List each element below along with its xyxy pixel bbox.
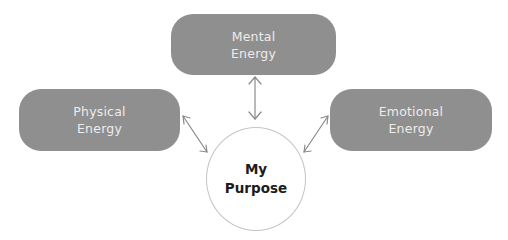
double-arrow-icon-physical-purpose [183, 116, 207, 152]
physical-energy-label-line1: Physical [73, 103, 125, 120]
physical-energy-label-line2: Energy [77, 120, 122, 137]
double-arrow-icon-mental-purpose [249, 77, 261, 119]
mental-energy-node: Mental Energy [171, 14, 336, 75]
mental-energy-label-line2: Energy [231, 45, 276, 62]
physical-energy-node: Physical Energy [19, 89, 180, 151]
mental-energy-label-line1: Mental [232, 28, 276, 45]
my-purpose-node: My Purpose [206, 127, 306, 231]
double-arrow-icon-emotional-purpose [304, 116, 328, 152]
emotional-energy-label-line2: Energy [389, 120, 434, 137]
emotional-energy-label-line1: Emotional [379, 103, 444, 120]
my-purpose-label-line1: My [245, 160, 267, 179]
emotional-energy-node: Emotional Energy [330, 89, 492, 151]
my-purpose-label-line2: Purpose [225, 179, 287, 198]
